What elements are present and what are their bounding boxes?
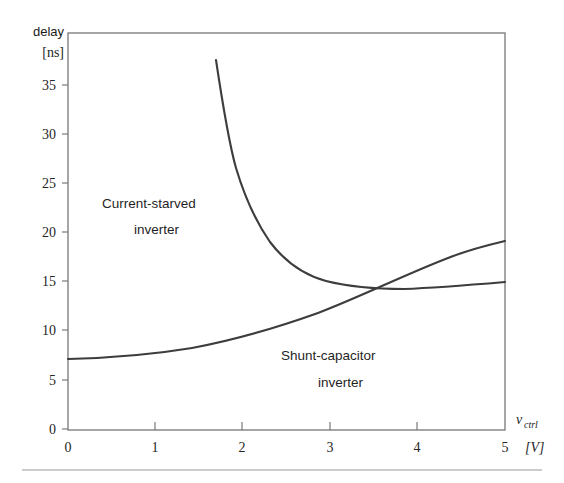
annotation-current-starved-line2: inverter <box>134 222 180 237</box>
annotation-current-starved-line1: Current-starved <box>102 196 196 211</box>
x-tick-label-3: 3 <box>327 440 334 455</box>
y-tick-labels: 0 5 10 15 20 25 30 35 <box>42 78 56 437</box>
y-axis-ticks <box>62 85 68 429</box>
y-tick-label-15: 15 <box>42 274 56 289</box>
x-tick-labels: 0 1 2 3 4 5 <box>65 440 509 455</box>
x-tick-label-5: 5 <box>502 440 509 455</box>
x-axis-unit: [V] <box>525 440 544 455</box>
curve-current-starved-inverter <box>216 60 505 289</box>
x-tick-label-4: 4 <box>414 440 421 455</box>
x-axis-title-sub: ctrl <box>524 419 538 430</box>
x-tick-label-0: 0 <box>65 440 72 455</box>
annotation-shunt-capacitor: Shunt-capacitor inverter <box>281 348 376 390</box>
delay-vs-vctrl-chart: 0 5 10 15 20 25 30 35 0 1 2 3 4 5 delay … <box>0 0 564 483</box>
y-tick-label-35: 35 <box>42 78 56 93</box>
annotation-shunt-capacitor-line1: Shunt-capacitor <box>281 348 376 363</box>
y-axis-title: delay <box>33 24 65 39</box>
annotation-current-starved: Current-starved inverter <box>102 196 196 237</box>
y-tick-label-20: 20 <box>42 225 56 240</box>
x-tick-label-1: 1 <box>152 440 159 455</box>
x-tick-label-2: 2 <box>239 440 246 455</box>
y-axis-unit: [ns] <box>42 45 64 60</box>
figure-container: 0 5 10 15 20 25 30 35 0 1 2 3 4 5 delay … <box>0 0 564 483</box>
x-axis-ticks <box>155 422 417 430</box>
x-axis-title: v ctrl <box>516 412 538 430</box>
y-tick-label-10: 10 <box>42 323 56 338</box>
y-tick-label-0: 0 <box>49 422 56 437</box>
x-axis-title-main: v <box>516 412 523 427</box>
annotation-shunt-capacitor-line2: inverter <box>318 375 364 390</box>
y-tick-label-25: 25 <box>42 176 56 191</box>
y-tick-label-5: 5 <box>49 373 56 388</box>
y-tick-label-30: 30 <box>42 127 56 142</box>
